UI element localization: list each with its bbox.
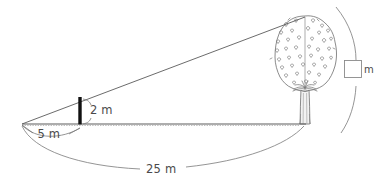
label-2m: 2 m [90, 103, 113, 117]
label-5m: 5 m [38, 127, 61, 141]
measuring-stick [78, 97, 81, 124]
distance-5m-arc-tick-right [69, 128, 80, 134]
tree-trunk [300, 90, 310, 124]
tree-height-measure-group: m [336, 7, 374, 133]
distance-25m-arc-right [186, 126, 304, 167]
label-unknown-unit: m [364, 64, 374, 75]
label-2m-leader-bottom [83, 118, 91, 124]
tree-height-arc-bottom [341, 86, 356, 133]
diagram-canvas: 5 m 2 m 25 m m [0, 0, 385, 183]
tree [270, 16, 337, 124]
label-2m-group: 2 m [83, 99, 113, 124]
tree-height-diagram: 5 m 2 m 25 m m [0, 0, 385, 183]
sight-line [22, 17, 305, 124]
label-25m: 25 m [146, 162, 176, 176]
distance-25m-arc-group: 25 m [22, 126, 304, 176]
tree-height-arc-top [336, 7, 356, 60]
answer-box[interactable] [345, 61, 362, 78]
